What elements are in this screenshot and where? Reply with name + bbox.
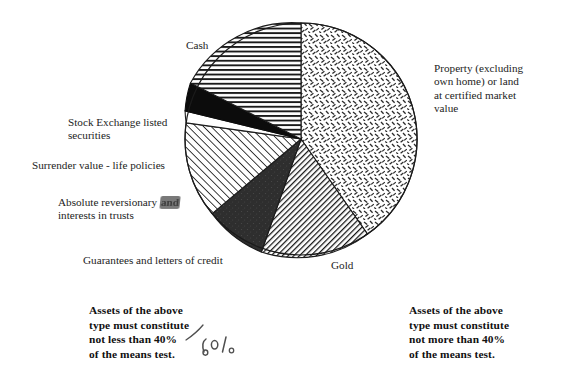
pie-label-absolute-reversionary-text: Absolute reversionary — [58, 196, 160, 208]
pie-label-absolute-reversionary-smudged-word: and — [159, 196, 180, 209]
pie-label-stock-exchange: Stock Exchange listed securities — [68, 116, 258, 143]
pie-label-absolute-reversionary: Absolute reversionary andinterests in tr… — [58, 196, 268, 223]
figure-canvas: Cash Property (excluding own home) or la… — [0, 0, 565, 381]
pie-label-guarantees: Guarantees and letters of credit — [83, 254, 323, 267]
pie-label-absolute-reversionary-line2: interests in trusts — [58, 209, 134, 221]
note-left-not-less-than: Assets of the above type must constitute… — [89, 303, 269, 361]
pie-label-cash: Cash — [186, 39, 208, 52]
pie-label-property: Property (excluding own home) or land at… — [434, 62, 562, 116]
note-right-not-more-than: Assets of the above type must constitute… — [409, 303, 565, 361]
pie-label-gold: Gold — [331, 259, 353, 272]
pie-label-surrender-value: Surrender value - life policies — [32, 159, 262, 172]
